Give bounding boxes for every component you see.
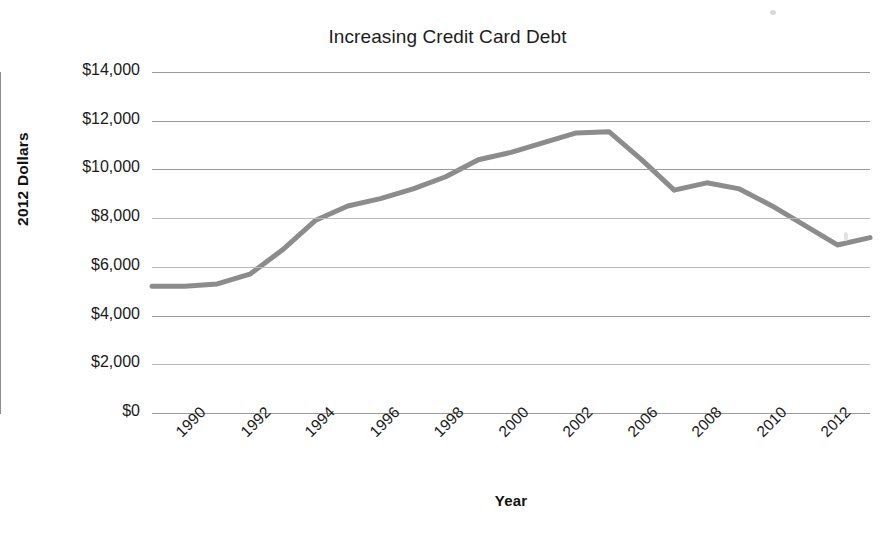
x-tick-label: 1994 — [301, 403, 339, 441]
x-tick-label: 1990 — [172, 403, 210, 441]
x-tick-label: 2002 — [559, 403, 597, 441]
x-axis-tick-labels: 1990199219941996199820002002200620082010… — [0, 0, 895, 537]
x-tick-label: 2006 — [624, 403, 662, 441]
x-tick-label: 2010 — [753, 403, 791, 441]
x-tick-label: 2000 — [495, 403, 533, 441]
chart-container: Increasing Credit Card Debt 2012 Dollars… — [0, 0, 895, 537]
x-axis-title: Year — [152, 492, 870, 509]
x-tick-label: 1996 — [366, 403, 404, 441]
x-tick-label: 2008 — [688, 403, 726, 441]
scan-speck — [844, 232, 848, 241]
x-tick-label: 1998 — [430, 403, 468, 441]
x-tick-label: 2012 — [817, 403, 855, 441]
x-tick-label: 1992 — [237, 403, 275, 441]
scan-speck — [770, 10, 776, 15]
